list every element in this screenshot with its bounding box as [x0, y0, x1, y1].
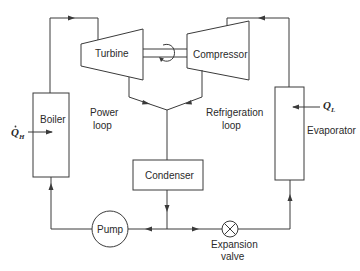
pipe-pump-to-boiler — [51, 177, 92, 229]
evaporator-box — [275, 87, 304, 180]
q-low-symbol: QL — [323, 99, 335, 114]
dot-accent-icon — [15, 126, 17, 128]
flow-arrow-right-icon — [192, 227, 199, 232]
flow-arrow-up-icon — [288, 194, 293, 201]
flow-arrow-left-icon — [145, 227, 152, 232]
pipe-valve-to-evaporator — [238, 180, 290, 229]
flow-arrow-down-icon — [165, 205, 170, 212]
cycle-diagram: Turbine Compressor Boiler QH Power loop … — [0, 0, 360, 271]
boiler-label: Boiler — [40, 114, 66, 125]
power-loop-label-2: loop — [93, 120, 112, 131]
turbine-label: Turbine — [95, 48, 129, 59]
expansion-valve-label-2: valve — [221, 251, 245, 262]
flow-arrow-diag-icon — [185, 100, 192, 105]
flow-arrow-right-icon — [68, 16, 75, 21]
compressor-label: Compressor — [193, 49, 248, 60]
flow-arrow-diag-icon — [142, 100, 150, 105]
pump-label: Pump — [97, 224, 124, 235]
expansion-valve-label-1: Expansion — [211, 239, 258, 250]
boiler-box — [33, 93, 69, 177]
pipe-compressor-exhaust — [167, 70, 202, 110]
refrigeration-loop-label-1: Refrigeration — [206, 107, 263, 118]
evaporator-label: Evaporator — [307, 125, 357, 136]
refrigeration-loop-label-2: loop — [222, 120, 241, 131]
q-high-symbol: QH — [11, 126, 25, 141]
power-loop-label-1: Power — [90, 107, 119, 118]
rotation-arrowhead-icon — [159, 57, 164, 62]
flow-arrow-up-icon — [49, 183, 54, 190]
flow-arrow-left-icon — [258, 16, 265, 21]
pipe-turbine-exhaust — [129, 77, 167, 110]
condenser-label: Condenser — [145, 170, 195, 181]
